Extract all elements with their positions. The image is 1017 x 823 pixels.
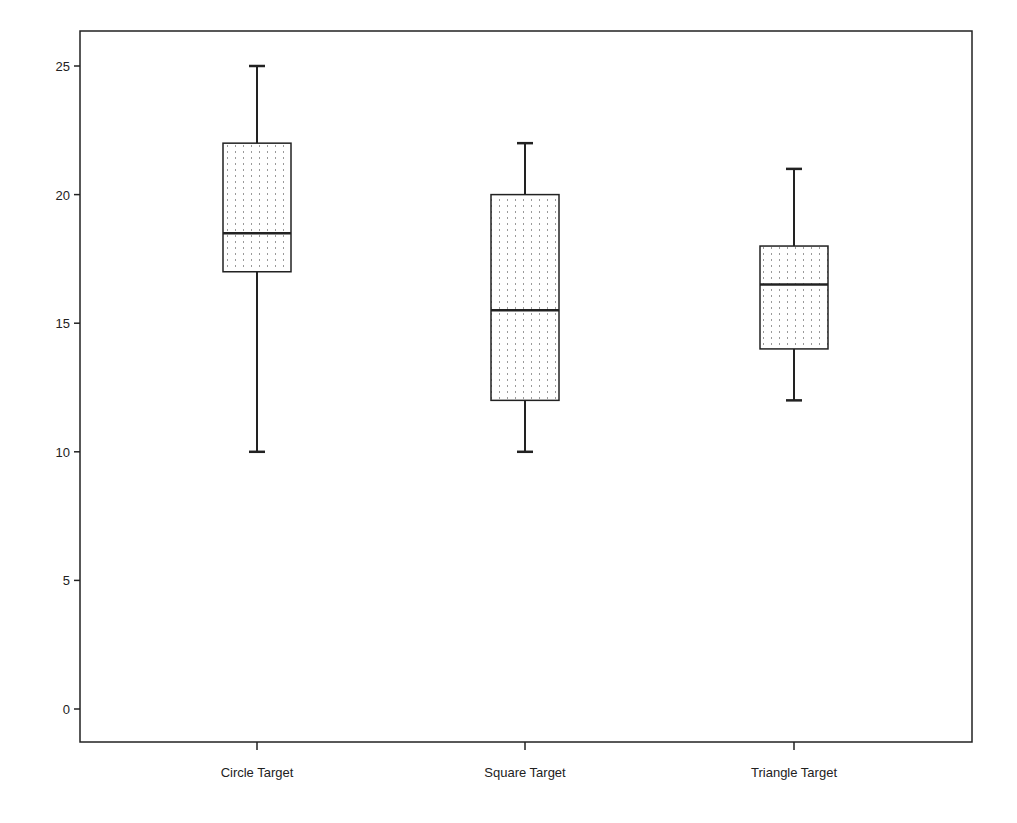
iqr-box — [491, 195, 559, 401]
x-axis: Circle TargetSquare TargetTriangle Targe… — [221, 742, 838, 780]
boxplot-chart: 0510152025 Circle TargetSquare TargetTri… — [0, 0, 1017, 823]
y-tick-label: 15 — [56, 316, 70, 331]
y-tick-label: 5 — [63, 573, 70, 588]
y-tick-label: 10 — [56, 445, 70, 460]
x-category-label: Square Target — [484, 765, 566, 780]
x-category-label: Circle Target — [221, 765, 294, 780]
iqr-box — [223, 143, 291, 272]
iqr-box — [760, 246, 828, 349]
x-category-label: Triangle Target — [751, 765, 837, 780]
y-tick-label: 25 — [56, 59, 70, 74]
y-tick-label: 20 — [56, 188, 70, 203]
y-tick-label: 0 — [63, 702, 70, 717]
y-axis: 0510152025 — [56, 59, 80, 717]
